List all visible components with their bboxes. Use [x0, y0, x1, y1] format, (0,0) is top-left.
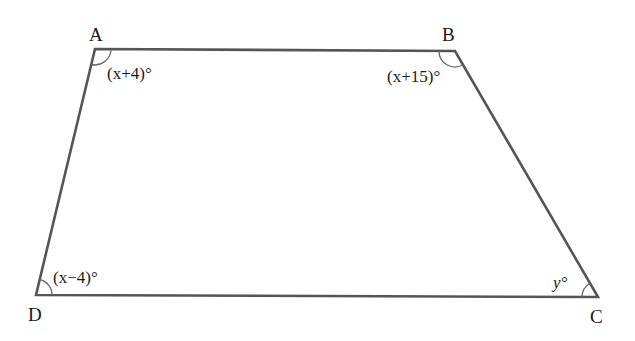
angle-arc-c [582, 283, 590, 297]
quadrilateral-diagram: A B C D (x+4)° (x+15)° y° (x−4)° [0, 0, 635, 341]
angle-label-b: (x+15)° [387, 67, 440, 86]
vertex-label-a: A [89, 24, 103, 45]
vertex-label-c: C [590, 306, 603, 327]
vertex-label-d: D [28, 304, 42, 325]
angle-label-a: (x+4)° [107, 64, 152, 83]
angle-label-d: (x−4)° [53, 268, 98, 287]
quadrilateral-abcd [36, 49, 598, 297]
angle-label-c: y° [551, 273, 568, 292]
angle-arc-d [40, 280, 52, 296]
vertex-label-b: B [442, 24, 455, 45]
